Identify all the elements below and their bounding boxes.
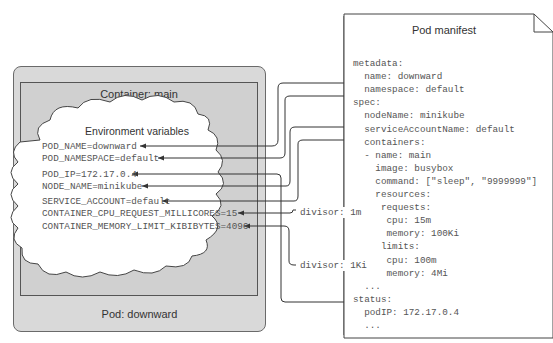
env-var: POD_NAME=downward: [42, 141, 137, 152]
env-var: NODE_NAME=minikube: [42, 181, 142, 192]
env-var: POD_NAMESPACE=default: [42, 153, 159, 164]
env-title: Environment variables: [42, 125, 232, 137]
env-var: POD_IP=172.17.0.4: [42, 169, 137, 180]
env-var: CONTAINER_CPU_REQUEST_MILLICORES=15: [42, 208, 237, 219]
env-var: SERVICE_ACCOUNT=default: [42, 196, 170, 207]
env-var: CONTAINER_MEMORY_LIMIT_KIBIBYTES=4096: [42, 221, 248, 232]
manifest-body: metadata: name: downward namespace: defa…: [353, 44, 537, 343]
manifest-title: Pod manifest: [344, 24, 544, 36]
